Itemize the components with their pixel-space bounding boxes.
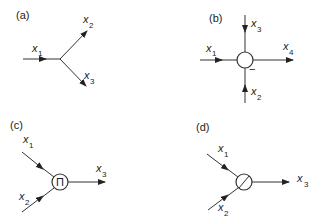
pi-symbol: Π [56,176,64,188]
svg-text:x: x [31,42,38,54]
svg-text:1: 1 [212,49,217,58]
panel-a-label: (a) [16,9,29,21]
var-label-x1: x 1 [217,142,229,159]
svg-text:4: 4 [289,48,294,57]
svg-text:x: x [217,201,224,213]
var-label-x3: x 3 [296,172,309,189]
var-label-x4: x 4 [282,40,294,57]
svg-text:x: x [282,40,289,52]
panel-b-summing-junction: (b) − x 1 x 3 x 4 x 2 [200,12,294,103]
var-label-x2: x 2 [18,190,30,207]
line-x2 [226,188,238,197]
svg-text:2: 2 [89,21,94,30]
svg-text:2: 2 [257,93,262,102]
var-label-x1: x 1 [205,42,217,58]
var-label-x3: x 3 [250,17,262,34]
svg-text:x: x [82,13,89,25]
arrow-x1-in [22,152,43,169]
minus-sign: − [249,63,255,75]
svg-text:x: x [250,17,257,29]
svg-text:2: 2 [25,198,30,207]
var-label-x2: x 2 [82,13,94,30]
svg-text:1: 1 [38,49,43,58]
panel-d-label: (d) [196,121,209,133]
panel-b-label: (b) [209,12,222,24]
svg-text:3: 3 [304,180,309,189]
var-label-x2: x 2 [217,201,229,218]
line-x2 [41,188,54,198]
var-label-x1: x 1 [31,42,43,58]
svg-text:x: x [296,172,303,184]
svg-text:x: x [217,142,224,154]
panel-a-branch-point: (a) x 1 x 2 x 3 [16,9,95,86]
line-x1 [226,168,238,177]
svg-text:3: 3 [257,25,262,34]
svg-text:x: x [205,42,212,54]
var-label-x2: x 2 [250,85,262,102]
svg-text:x: x [22,133,29,145]
var-label-x3: x 3 [83,69,95,86]
var-label-x1: x 1 [22,133,34,150]
panel-c-multiplier: (c) Π x 1 x 2 x 3 [10,119,107,212]
panel-d-divider: (d) x 1 x 2 x 3 [196,121,309,218]
svg-text:3: 3 [90,77,95,86]
block-diagram-figure: (a) x 1 x 2 x 3 (b) − [0,0,316,224]
svg-text:3: 3 [102,170,107,179]
arrow-x3-out [60,59,86,86]
svg-text:2: 2 [224,209,229,218]
svg-text:x: x [250,85,257,97]
svg-text:1: 1 [29,141,34,150]
svg-text:1: 1 [224,150,229,159]
svg-text:x: x [95,162,102,174]
var-label-x3: x 3 [95,162,107,179]
line-x1 [41,167,54,177]
svg-text:x: x [83,69,90,81]
panel-c-label: (c) [10,119,23,131]
arrow-x2-out [60,31,87,59]
svg-text:x: x [18,190,25,202]
